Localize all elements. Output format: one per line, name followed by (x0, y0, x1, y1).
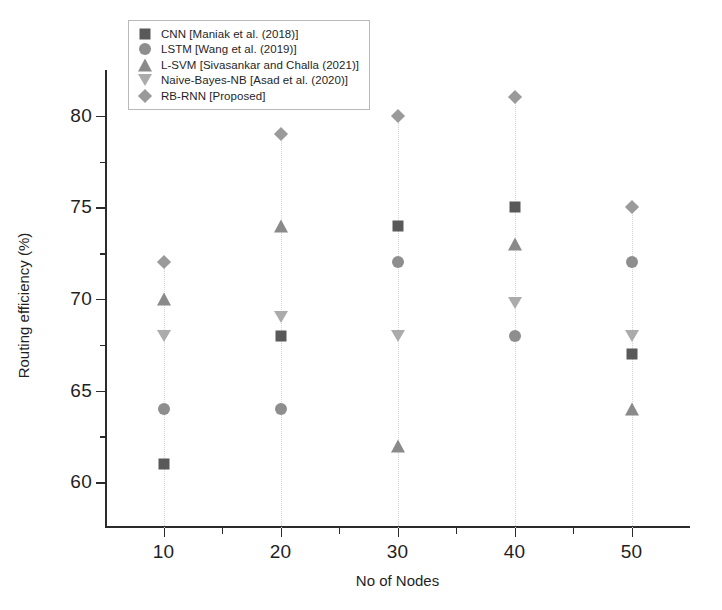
data-point (158, 403, 170, 415)
data-point (391, 330, 405, 342)
data-point (626, 348, 637, 359)
x-tick-20 (281, 528, 282, 537)
data-point (509, 330, 521, 342)
data-point (275, 403, 287, 415)
legend-item-1[interactable]: LSTM [Wang et al. (2019)] (136, 42, 359, 58)
stem-line-30 (398, 116, 400, 528)
legend-swatch (136, 89, 154, 103)
square-marker-icon (140, 28, 151, 39)
data-point (157, 293, 171, 306)
y-tick-80 (96, 116, 105, 117)
y-minor-tick (100, 253, 106, 254)
legend-item-label: RB-RNN [Proposed] (161, 90, 265, 102)
data-point (391, 439, 405, 452)
data-point (626, 256, 638, 268)
data-point (390, 109, 404, 123)
data-point (392, 220, 403, 231)
data-point (509, 202, 520, 213)
x-tick-label-40: 40 (504, 541, 526, 563)
x-tick-label-20: 20 (270, 541, 292, 563)
data-point (157, 330, 171, 342)
scatter-chart-figure: Routing efficiency (%) 6065707580 102030… (0, 0, 722, 610)
y-tick-70 (96, 299, 105, 300)
stem-line-40 (515, 97, 517, 528)
x-tick-50 (632, 528, 633, 537)
x-minor-tick (456, 528, 457, 534)
data-point (158, 458, 169, 469)
x-tick-label-10: 10 (153, 541, 175, 563)
legend-item-4[interactable]: RB-RNN [Proposed] (136, 88, 359, 104)
data-point (274, 219, 288, 232)
legend-swatch (136, 58, 154, 72)
legend-swatch (136, 73, 154, 87)
legend-swatch (136, 42, 154, 56)
y-minor-tick (100, 162, 106, 163)
legend-swatch (136, 27, 154, 41)
y-tick-75 (96, 207, 105, 208)
plot-area: 6065707580 1020304050 (105, 70, 690, 528)
legend-item-label: CNN [Maniak et al. (2018)] (161, 28, 298, 40)
data-point (625, 402, 639, 415)
x-axis-title-text: No of Nodes (356, 572, 439, 589)
y-minor-tick (100, 436, 106, 437)
legend-item-2[interactable]: L-SVM [Sivasankar and Challa (2021)] (136, 57, 359, 73)
legend-item-label: Naive-Bayes-NB [Asad et al. (2020)] (161, 74, 348, 86)
y-axis-title: Routing efficiency (%) (6, 0, 42, 610)
y-axis-line (105, 70, 107, 528)
data-point (507, 90, 521, 104)
diamond-marker-icon (138, 89, 152, 103)
y-tick-label-75: 75 (70, 196, 92, 218)
x-tick-10 (164, 528, 165, 537)
y-tick-label-65: 65 (70, 380, 92, 402)
data-point (625, 330, 639, 342)
triangle-down-marker-icon (138, 74, 152, 86)
data-point (508, 297, 522, 309)
y-tick-label-60: 60 (70, 471, 92, 493)
x-minor-tick (222, 528, 223, 534)
x-tick-30 (398, 528, 399, 537)
y-minor-tick (100, 345, 106, 346)
x-minor-tick (573, 528, 574, 534)
y-axis-title-text: Routing efficiency (%) (16, 232, 33, 378)
triangle-up-marker-icon (138, 58, 152, 71)
y-tick-label-80: 80 (70, 105, 92, 127)
data-point (156, 255, 170, 269)
circle-marker-icon (139, 43, 151, 55)
data-point (275, 330, 286, 341)
y-tick-label-70: 70 (70, 288, 92, 310)
x-axis-title: No of Nodes (105, 572, 690, 589)
data-point (273, 127, 287, 141)
data-point (274, 311, 288, 323)
y-tick-60 (96, 482, 105, 483)
legend-item-label: LSTM [Wang et al. (2019)] (161, 43, 297, 55)
y-tick-65 (96, 391, 105, 392)
legend-item-0[interactable]: CNN [Maniak et al. (2018)] (136, 26, 359, 42)
x-tick-40 (515, 528, 516, 537)
legend-item-3[interactable]: Naive-Bayes-NB [Asad et al. (2020)] (136, 73, 359, 89)
data-point (392, 256, 404, 268)
data-point (508, 238, 522, 251)
x-tick-label-50: 50 (621, 541, 643, 563)
x-minor-tick (339, 528, 340, 534)
legend-item-label: L-SVM [Sivasankar and Challa (2021)] (161, 59, 359, 71)
x-tick-label-30: 30 (387, 541, 409, 563)
chart-legend: CNN [Maniak et al. (2018)]LSTM [Wang et … (128, 20, 370, 110)
data-point (624, 200, 638, 214)
